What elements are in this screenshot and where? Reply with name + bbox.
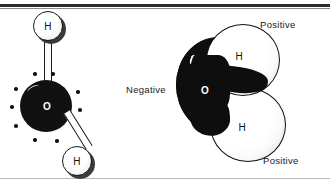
atom-hydrogen-top-label: H bbox=[44, 21, 51, 32]
lone-pair-dot bbox=[76, 90, 80, 94]
sf-atom-oxygen-label: O bbox=[199, 83, 211, 97]
atom-hydrogen-top: H bbox=[33, 11, 63, 41]
atom-oxygen-label: O bbox=[41, 99, 53, 113]
lone-pair-dot bbox=[14, 87, 18, 91]
atom-hydrogen-bottom: H bbox=[62, 146, 92, 176]
lone-pair-dot bbox=[33, 72, 37, 76]
atom-hydrogen-bottom-label: H bbox=[73, 156, 80, 167]
charge-label-positive-bottom: Positive bbox=[263, 155, 299, 166]
sf-atom-hydrogen-top-label: H bbox=[235, 51, 242, 62]
water-molecule-figure: H O H H H O bbox=[0, 0, 330, 184]
charge-label-positive-top: Positive bbox=[260, 19, 296, 30]
lone-pair-dot bbox=[78, 108, 82, 112]
lone-pair-dot bbox=[33, 138, 37, 142]
charge-label-negative: Negative bbox=[126, 84, 166, 95]
lone-pair-dot bbox=[51, 72, 55, 76]
lone-pair-dot bbox=[14, 124, 18, 128]
sf-atom-hydrogen-bottom-label: H bbox=[238, 122, 245, 133]
lone-pair-dot bbox=[10, 105, 14, 109]
space-filling-panel: H H O Negative Positive Positive bbox=[160, 0, 330, 184]
lone-pair-dot bbox=[55, 139, 59, 143]
bond-oxygen-hydrogen-bottom bbox=[64, 110, 93, 150]
